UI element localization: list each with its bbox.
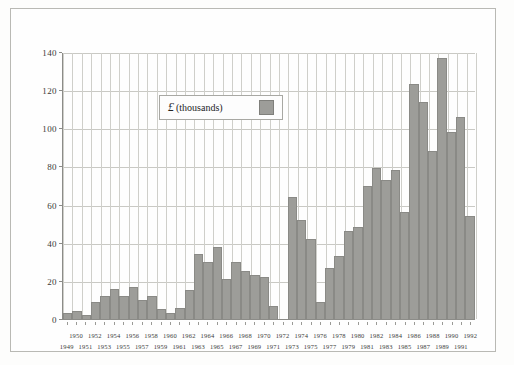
x-axis-tick-mark xyxy=(414,322,415,325)
bar xyxy=(100,296,109,319)
bar xyxy=(325,268,334,319)
bar-slot xyxy=(157,53,166,319)
bar xyxy=(363,186,372,320)
bar xyxy=(465,216,474,319)
chart-page: 020406080100120140 194919501951195219531… xyxy=(0,0,514,365)
bar-slot xyxy=(110,53,119,319)
x-axis-tick-mark xyxy=(76,322,77,325)
bar-slot xyxy=(288,53,297,319)
y-axis-tick-label: 40 xyxy=(47,239,57,249)
bar-slot xyxy=(344,53,353,319)
x-axis-tick-mark xyxy=(405,322,406,325)
x-axis-tick-mark xyxy=(151,322,152,325)
bar xyxy=(63,313,72,319)
x-axis-tick-mark xyxy=(161,322,162,325)
x-axis-tick-mark xyxy=(142,322,143,325)
x-axis: 1949195019511952195319541955195619571958… xyxy=(62,322,475,354)
bar xyxy=(381,180,390,319)
bar xyxy=(391,170,400,319)
x-axis-tick-mark xyxy=(189,322,190,325)
bar xyxy=(428,151,437,319)
bar xyxy=(250,275,259,319)
bar xyxy=(138,300,147,319)
bar-slot xyxy=(185,53,194,319)
bar-slot xyxy=(129,53,138,319)
bar xyxy=(129,287,138,319)
legend-swatch-icon xyxy=(259,100,274,115)
bar-slot xyxy=(119,53,128,319)
bar xyxy=(241,271,250,319)
bar xyxy=(213,247,222,319)
bar xyxy=(175,308,184,319)
bar-slot xyxy=(72,53,81,319)
x-axis-tick-mark xyxy=(264,322,265,325)
legend-unit-label: (thousands) xyxy=(176,102,223,113)
bar-slot xyxy=(316,53,325,319)
bar-slot xyxy=(91,53,100,319)
x-axis-tick-mark xyxy=(470,322,471,325)
x-axis-tick-mark xyxy=(198,322,199,325)
bar-slot xyxy=(100,53,109,319)
bar-slot xyxy=(363,53,372,319)
bar-slot xyxy=(437,53,446,319)
bar-slot xyxy=(82,53,91,319)
bar-slot xyxy=(456,53,465,319)
bar-slot xyxy=(306,53,315,319)
bar xyxy=(231,262,240,319)
y-axis-tick-label: 80 xyxy=(47,162,57,172)
x-axis-tick-mark xyxy=(423,322,424,325)
bar-slot xyxy=(419,53,428,319)
bar xyxy=(166,313,175,319)
bar-slot xyxy=(241,53,250,319)
bar-slot xyxy=(391,53,400,319)
x-axis-tick-mark xyxy=(207,322,208,325)
chart-plot-area xyxy=(62,53,475,320)
bar xyxy=(82,315,91,319)
x-axis-tick-mark xyxy=(442,322,443,325)
bar-series xyxy=(63,53,475,319)
bar-slot xyxy=(231,53,240,319)
x-axis-tick-mark xyxy=(179,322,180,325)
x-axis-tick-mark xyxy=(348,322,349,325)
bar-slot xyxy=(222,53,231,319)
bar xyxy=(147,296,156,319)
x-axis-tick-mark xyxy=(339,322,340,325)
bar xyxy=(203,262,212,319)
x-axis-tick-mark xyxy=(114,322,115,325)
bar-slot xyxy=(278,53,287,319)
bar xyxy=(419,102,428,319)
x-axis-tick-mark xyxy=(330,322,331,325)
x-axis-tick-mark xyxy=(273,322,274,325)
bar xyxy=(316,302,325,319)
x-axis-tick-mark xyxy=(254,322,255,325)
bar xyxy=(334,256,343,319)
bar xyxy=(353,227,362,319)
bar xyxy=(400,212,409,319)
bar xyxy=(269,306,278,319)
x-axis-tick-mark xyxy=(301,322,302,325)
bar-slot xyxy=(400,53,409,319)
x-axis-tick-mark xyxy=(95,322,96,325)
bar xyxy=(372,168,381,319)
bar xyxy=(447,132,456,319)
x-axis-tick-mark xyxy=(395,322,396,325)
x-axis-tick-mark xyxy=(292,322,293,325)
bar xyxy=(110,289,119,320)
x-axis-tick-mark xyxy=(104,322,105,325)
bar-slot xyxy=(409,53,418,319)
bar-slot xyxy=(63,53,72,319)
bar xyxy=(306,239,315,319)
x-axis-tick-mark xyxy=(283,322,284,325)
x-axis-tick-mark xyxy=(123,322,124,325)
bar xyxy=(157,309,166,319)
bar-slot xyxy=(353,53,362,319)
legend-label: £(thousands) xyxy=(168,100,259,115)
bar-slot xyxy=(213,53,222,319)
gridline-vertical xyxy=(476,53,477,319)
bar-slot xyxy=(428,53,437,319)
x-axis-tick-mark xyxy=(433,322,434,325)
bar-slot xyxy=(269,53,278,319)
x-axis-tick-mark xyxy=(386,322,387,325)
y-axis-tick-label: 20 xyxy=(47,277,57,287)
bar-slot xyxy=(465,53,474,319)
